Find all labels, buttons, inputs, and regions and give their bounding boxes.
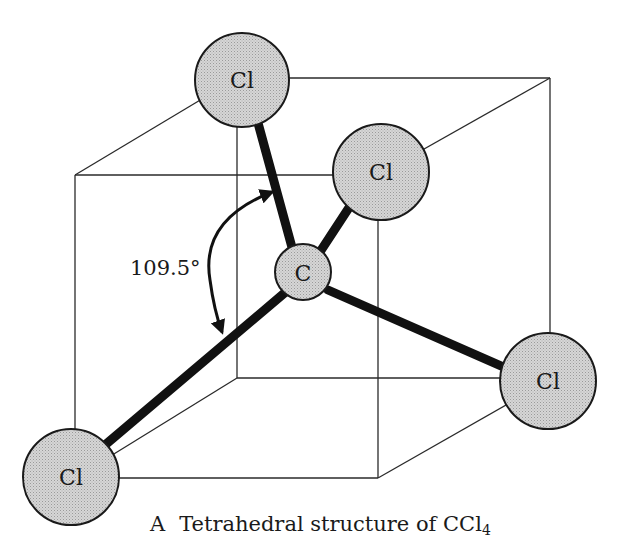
atom-label: Cl	[59, 465, 83, 490]
bond-angle-indicator: 109.5°	[130, 192, 272, 332]
atom-label: C	[295, 261, 312, 286]
caption-subscript: 4	[482, 522, 491, 538]
bond-top	[255, 112, 296, 262]
angle-label: 109.5°	[130, 256, 201, 280]
tetrahedral-diagram: 109.5° Cl Cl Cl Cl C	[0, 0, 623, 558]
atom-carbon: C	[275, 244, 331, 300]
atom-cl-right: Cl	[500, 333, 596, 429]
atom-label: Cl	[536, 369, 560, 394]
bond-right	[328, 290, 515, 372]
atom-cl-upper-right: Cl	[333, 124, 429, 220]
atom-label: Cl	[230, 68, 254, 93]
caption-text: Tetrahedral structure of CCl	[179, 512, 482, 536]
atom-cl-top: Cl	[195, 33, 289, 127]
bond-bottom-left	[105, 290, 288, 445]
caption-letter: A	[150, 512, 165, 536]
figure-caption: ATetrahedral structure of CCl4	[150, 512, 491, 538]
atom-label: Cl	[369, 160, 393, 185]
atom-cl-bottom-left: Cl	[23, 429, 119, 525]
